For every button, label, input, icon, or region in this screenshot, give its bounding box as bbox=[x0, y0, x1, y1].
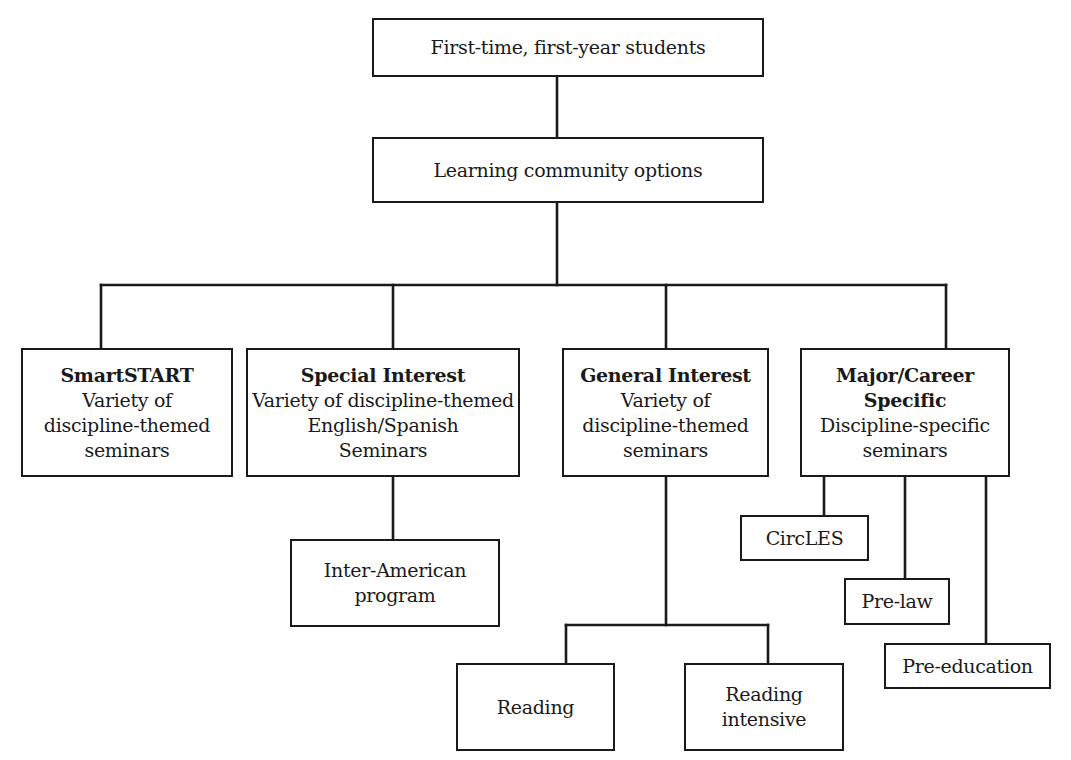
node-line: Reading bbox=[497, 695, 574, 720]
node-line: CircLES bbox=[766, 526, 844, 551]
node-reading: Reading bbox=[456, 663, 615, 751]
node-label: Learning community options bbox=[433, 158, 702, 183]
node-line: English/Spanish bbox=[307, 413, 458, 438]
node-line: Variety of discipline-themed bbox=[252, 388, 514, 413]
node-line: Discipline-specific bbox=[820, 413, 990, 438]
node-line: seminars bbox=[862, 438, 947, 463]
node-title: Special Interest bbox=[301, 363, 465, 388]
node-smartstart: SmartSTART Variety of discipline-themed … bbox=[21, 348, 233, 477]
node-pre-education: Pre-education bbox=[884, 643, 1051, 689]
node-title: General Interest bbox=[580, 363, 751, 388]
node-line: seminars bbox=[84, 438, 169, 463]
node-title: Major/Career bbox=[836, 363, 974, 388]
node-major-career-specific: Major/Career Specific Discipline-specifi… bbox=[800, 348, 1010, 477]
node-general-interest: General Interest Variety of discipline-t… bbox=[562, 348, 769, 477]
learning-community-diagram: First-time, first-year students Learning… bbox=[0, 0, 1071, 760]
node-line: Pre-education bbox=[902, 654, 1033, 679]
node-title: SmartSTART bbox=[60, 363, 193, 388]
node-line: Variety of bbox=[621, 388, 711, 413]
node-pre-law: Pre-law bbox=[844, 578, 950, 625]
node-line: seminars bbox=[623, 438, 708, 463]
node-circles: CircLES bbox=[740, 515, 869, 561]
node-label: First-time, first-year students bbox=[431, 35, 706, 60]
node-line: Variety of bbox=[82, 388, 172, 413]
node-line: Pre-law bbox=[861, 589, 932, 614]
node-special-interest: Special Interest Variety of discipline-t… bbox=[246, 348, 520, 477]
node-first-year-students: First-time, first-year students bbox=[372, 18, 764, 77]
node-line: Seminars bbox=[339, 438, 427, 463]
node-line: program bbox=[354, 583, 435, 608]
node-line: discipline-themed bbox=[582, 413, 748, 438]
node-line: Inter-American bbox=[324, 558, 466, 583]
node-learning-community-options: Learning community options bbox=[372, 137, 764, 203]
node-title: Specific bbox=[864, 388, 946, 413]
node-reading-intensive: Reading intensive bbox=[684, 663, 844, 751]
node-line: discipline-themed bbox=[44, 413, 210, 438]
node-line: intensive bbox=[722, 707, 807, 732]
node-inter-american-program: Inter-American program bbox=[290, 539, 500, 627]
node-line: Reading bbox=[725, 682, 802, 707]
